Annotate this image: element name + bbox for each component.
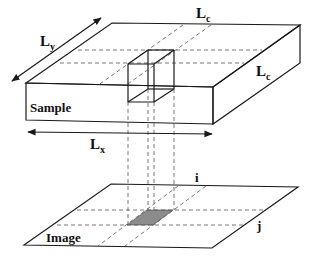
sample-top-gridlines [60,25,262,86]
projection-lines [128,89,174,225]
lx-label: Lx [90,136,105,155]
sample-image-projection-diagram: Sample Image Ly Lc Lc Lx i j [0,0,310,257]
lx-dimension-arrow [28,132,212,134]
i-index-label: i [195,170,199,185]
lc-top-label: Lc [196,5,211,24]
shaded-pixel [127,210,173,225]
ly-dimension-arrow [12,18,101,81]
image-label: Image [46,230,81,245]
j-index-label: j [256,218,261,233]
ly-label: Ly [40,33,55,52]
sample-label: Sample [30,100,71,115]
lc-side-label: Lc [256,63,271,82]
sample-column-cube [128,50,174,102]
